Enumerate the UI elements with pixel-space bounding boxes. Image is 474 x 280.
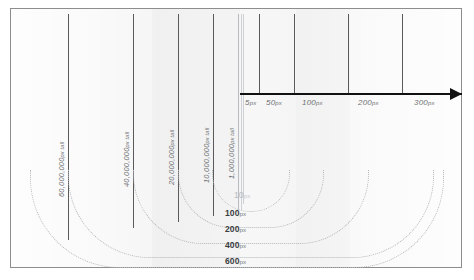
gridline-tick-5px bbox=[259, 14, 260, 94]
vertical-label-unit: px tall bbox=[124, 131, 130, 147]
x-tick-label-5px: 5px bbox=[245, 98, 256, 107]
gridline-tick-50px bbox=[294, 14, 295, 94]
x-tick-unit: px bbox=[275, 100, 282, 106]
vertical-label-unit: px tall bbox=[169, 129, 175, 145]
x-tick-unit: px bbox=[316, 100, 323, 106]
contour-value: 400 bbox=[225, 240, 239, 250]
x-tick-value: 300 bbox=[414, 98, 428, 107]
x-tick-label-200px: 200px bbox=[358, 98, 379, 107]
vertical-label-unit: px tall bbox=[229, 128, 235, 144]
vertical-label-unit: px tall bbox=[204, 127, 210, 143]
contour-label-100px: 100px bbox=[225, 208, 246, 218]
contour-600px bbox=[30, 170, 444, 268]
x-tick-value: 100 bbox=[302, 98, 316, 107]
contour-value: 100 bbox=[225, 208, 239, 218]
contour-label-400px: 400px bbox=[225, 240, 246, 250]
contour-unit: px bbox=[244, 192, 251, 199]
x-tick-value: 200 bbox=[358, 98, 372, 107]
plot-area: 60,000,000px tall 40,000,000px tall 20,0… bbox=[0, 0, 474, 280]
x-tick-label-300px: 300px bbox=[414, 98, 435, 107]
vertical-label-unit: px tall bbox=[59, 141, 65, 157]
contour-value: 200 bbox=[225, 224, 239, 234]
contour-unit: px bbox=[239, 226, 246, 233]
x-tick-value: 50 bbox=[266, 98, 275, 107]
contour-unit: px bbox=[239, 210, 246, 217]
gridline-tick-200px bbox=[402, 14, 403, 94]
x-tick-label-100px: 100px bbox=[302, 98, 323, 107]
x-axis-arrow-icon bbox=[450, 88, 462, 100]
contour-unit: px bbox=[239, 242, 246, 249]
diagram-canvas: 60,000,000px tall 40,000,000px tall 20,0… bbox=[0, 0, 474, 280]
contour-unit: px bbox=[239, 258, 246, 265]
gridline-tick-100px bbox=[348, 14, 349, 94]
x-tick-label-50px: 50px bbox=[266, 98, 282, 107]
x-tick-unit: px bbox=[372, 100, 379, 106]
x-tick-unit: px bbox=[428, 100, 435, 106]
contour-label-200px: 200px bbox=[225, 224, 246, 234]
contour-value: 600 bbox=[225, 256, 239, 266]
x-axis-line bbox=[240, 93, 462, 95]
x-tick-unit: px bbox=[250, 100, 257, 106]
contour-label-600px: 600px bbox=[225, 256, 246, 266]
contour-value: 10 bbox=[234, 190, 244, 200]
contour-label-10px: 10px bbox=[234, 190, 250, 200]
